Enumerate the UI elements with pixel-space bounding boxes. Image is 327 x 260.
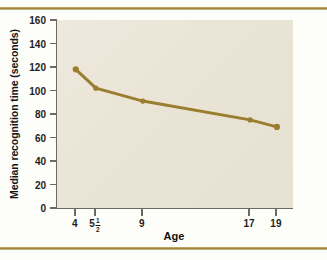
x-tick-label-4: 19 xyxy=(270,218,281,229)
x-tick-label-2: 9 xyxy=(139,218,145,229)
data-point-9 xyxy=(140,98,145,103)
y-axis-title: Median recognition time (seconds) xyxy=(6,20,22,208)
y-tick-60 xyxy=(50,137,57,139)
y-tick-label-40: 40 xyxy=(35,156,46,167)
y-tick-label-140: 140 xyxy=(29,38,46,49)
y-tick-label-20: 20 xyxy=(35,179,46,190)
data-point-19 xyxy=(274,124,280,130)
x-tick-4 xyxy=(275,209,277,216)
data-point-17 xyxy=(247,117,252,122)
x-tick-0 xyxy=(74,209,76,216)
y-tick-label-100: 100 xyxy=(29,85,46,96)
y-tick-40 xyxy=(50,160,57,162)
x-axis-title: Age xyxy=(56,230,292,242)
x-axis-title-label: Age xyxy=(164,230,185,242)
y-tick-20 xyxy=(50,184,57,186)
y-tick-120 xyxy=(50,66,57,68)
data-point-5½ xyxy=(93,86,98,91)
y-tick-label-0: 0 xyxy=(40,203,46,214)
y-axis-title-label: Median recognition time (seconds) xyxy=(8,29,20,199)
x-tick-1 xyxy=(94,209,96,216)
y-tick-80 xyxy=(50,113,57,115)
x-tick-2 xyxy=(141,209,143,216)
bottom-divider-rule xyxy=(0,247,327,250)
y-tick-160 xyxy=(50,19,57,21)
x-tick-3 xyxy=(248,209,250,216)
y-tick-140 xyxy=(50,43,57,45)
y-tick-label-60: 60 xyxy=(35,132,46,143)
figure-page: Median recognition time (seconds) 020406… xyxy=(0,0,327,260)
y-tick-label-120: 120 xyxy=(29,62,46,73)
data-line-Median recognition time xyxy=(76,69,277,127)
line-series-svg xyxy=(57,20,293,208)
y-tick-100 xyxy=(50,90,57,92)
x-tick-label-3: 17 xyxy=(244,218,255,229)
data-point-4 xyxy=(73,66,79,72)
y-tick-label-160: 160 xyxy=(29,15,46,26)
top-divider-rule xyxy=(0,7,327,10)
y-tick-label-80: 80 xyxy=(35,109,46,120)
x-tick-label-0: 4 xyxy=(72,218,78,229)
plot-area: 020406080100120140160 xyxy=(56,20,293,209)
plot-inner: 020406080100120140160 xyxy=(57,20,293,208)
